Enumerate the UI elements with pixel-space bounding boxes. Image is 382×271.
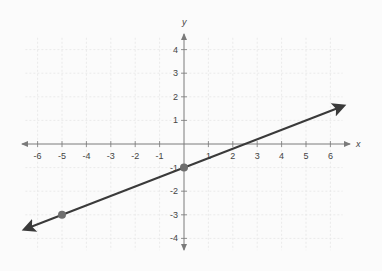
y-tick-label: 3: [173, 68, 178, 78]
axes: [22, 34, 350, 250]
y-tick-label: 4: [173, 45, 178, 55]
x-tick-label: -2: [131, 151, 139, 161]
x-tick-label: 2: [230, 151, 235, 161]
x-tick-label: -1: [156, 151, 164, 161]
y-tick-label: -2: [170, 186, 178, 196]
coordinate-plane: -6-5-4-3-2-11234564321-1-2-3-4 x y: [0, 0, 382, 271]
data-point: [58, 211, 66, 219]
x-tick-label: -5: [58, 151, 66, 161]
x-tick-label: -3: [107, 151, 115, 161]
x-tick-label: 6: [328, 151, 333, 161]
x-tick-label: 5: [303, 151, 308, 161]
y-tick-label: -3: [170, 210, 178, 220]
x-tick-label: -4: [82, 151, 90, 161]
data-point: [180, 164, 188, 172]
x-tick-label: 4: [279, 151, 284, 161]
y-tick-label: 1: [173, 115, 178, 125]
x-axis-label: x: [355, 139, 361, 149]
graph-svg: -6-5-4-3-2-11234564321-1-2-3-4 x y: [0, 0, 382, 271]
x-tick-label: 3: [255, 151, 260, 161]
x-tick-label: -6: [34, 151, 42, 161]
y-tick-label: -4: [170, 233, 178, 243]
y-axis-label: y: [181, 17, 187, 27]
y-tick-label: 2: [173, 92, 178, 102]
